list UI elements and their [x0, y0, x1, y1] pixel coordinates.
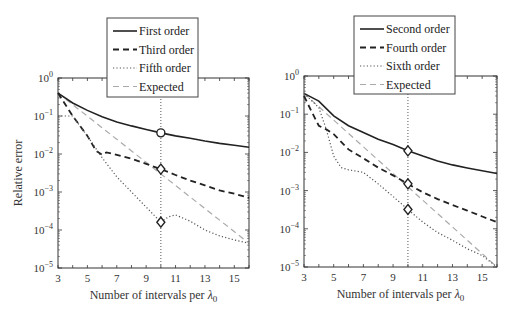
y-tick-label: 10−1 — [279, 106, 299, 120]
y-tick-label: 10−4 — [279, 221, 299, 235]
legend: Second orderFourth orderSixth orderExpec… — [354, 16, 455, 94]
y-tick-label: 100 — [284, 68, 299, 82]
x-tick-label: 3 — [55, 272, 61, 284]
circle-marker — [157, 129, 165, 137]
x-tick-label: 7 — [361, 271, 367, 283]
x-axis-label: Number of intervals per λ0 — [337, 287, 465, 303]
legend: First orderThird orderFifth orderExpecte… — [107, 18, 198, 97]
y-tick-label: 10−2 — [279, 144, 299, 158]
x-tick-label: 11 — [417, 271, 428, 283]
legend-entry: Sixth order — [386, 59, 440, 73]
figure: 357911131510010−110−210−310−410−5Number … — [0, 0, 515, 313]
diamond-marker — [157, 164, 165, 174]
x-tick-label: 7 — [114, 272, 120, 284]
legend-entry: Expected — [139, 80, 184, 94]
x-tick-label: 13 — [199, 272, 211, 284]
axes-frame — [304, 76, 497, 267]
series-expected — [58, 93, 249, 243]
series-fifth-order — [58, 116, 249, 243]
diamond-marker — [404, 146, 412, 156]
y-tick-label: 10−5 — [279, 259, 299, 273]
legend-entry: Fourth order — [386, 41, 446, 55]
y-tick-label: 100 — [38, 70, 53, 84]
diamond-marker — [404, 205, 412, 215]
series-second-order — [304, 93, 497, 173]
y-tick-label: 10−3 — [33, 184, 53, 198]
series-first-order — [58, 93, 249, 147]
x-tick-label: 3 — [301, 271, 307, 283]
left-plot-panel: 357911131510010−110−210−310−410−5Number … — [11, 18, 249, 304]
x-tick-label: 5 — [331, 271, 337, 283]
legend-entry: First order — [139, 24, 189, 38]
x-tick-label: 9 — [390, 271, 396, 283]
axes-frame — [58, 78, 249, 268]
y-axis-label: Relative error — [11, 140, 25, 206]
legend-entry: Third order — [139, 43, 194, 57]
series-third-order — [58, 93, 249, 198]
legend-entry: Fifth order — [139, 61, 191, 75]
diamond-marker — [157, 217, 165, 227]
y-tick-label: 10−3 — [279, 183, 299, 197]
y-tick-label: 10−1 — [33, 108, 53, 122]
x-tick-label: 15 — [229, 272, 241, 284]
x-axis-label: Number of intervals per λ0 — [90, 288, 218, 304]
y-tick-label: 10−4 — [33, 222, 53, 236]
y-tick-label: 10−2 — [33, 146, 53, 160]
legend-entry: Second order — [386, 22, 450, 36]
x-tick-label: 15 — [477, 271, 489, 283]
y-tick-label: 10−5 — [33, 260, 53, 274]
x-tick-label: 13 — [447, 271, 459, 283]
x-tick-label: 9 — [143, 272, 149, 284]
diamond-marker — [404, 179, 412, 189]
right-plot-panel: 357911131510010−110−210−310−410−5Number … — [279, 16, 497, 303]
x-tick-label: 5 — [85, 272, 91, 284]
legend-entry: Expected — [386, 78, 431, 92]
x-tick-label: 11 — [170, 272, 181, 284]
